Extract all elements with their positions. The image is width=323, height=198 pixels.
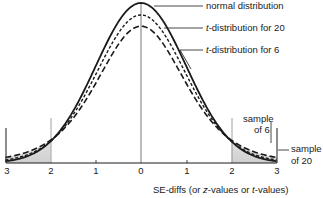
- legend-normal: normal distribution: [206, 0, 284, 11]
- sample20-line2: of 20: [291, 155, 312, 166]
- x-axis-label: SE-diffs (or z-values or t-values): [153, 184, 289, 195]
- distribution-chart: 3 2 1 0 1 2 3 SE-diffs (or z-values or t…: [0, 0, 323, 198]
- legend-t6: t-distribution for 6: [206, 44, 279, 55]
- sample6-line2: of 6: [254, 124, 270, 135]
- tick-label-pos3: 3: [274, 165, 279, 176]
- tick-label-neg1: 1: [93, 165, 98, 176]
- tick-label-pos2: 2: [229, 165, 234, 176]
- legend-t20: t-distribution for 20: [206, 22, 285, 33]
- tick-label-neg3: 3: [4, 165, 9, 176]
- sample6-line1: sample: [243, 113, 274, 124]
- tick-label-pos1: 1: [184, 165, 189, 176]
- tick-label-0: 0: [138, 165, 143, 176]
- tick-label-neg2: 2: [48, 165, 53, 176]
- sample20-line1: sample: [291, 143, 322, 154]
